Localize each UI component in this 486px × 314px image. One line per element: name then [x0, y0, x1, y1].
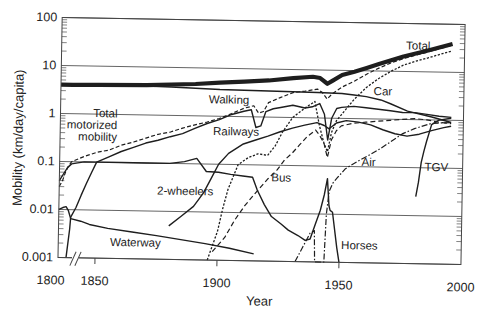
x-tick-label: 1950 [325, 278, 353, 292]
x-tick-label: 1900 [203, 276, 231, 290]
x-axis-label: Year [246, 293, 273, 308]
curve-label-total-motorized: mobility [78, 130, 117, 143]
curve-label-tgv: TGV [424, 161, 448, 173]
series-line-total [61, 37, 453, 91]
y-tick-label: 10 [42, 58, 56, 72]
curve-label-total: Total [406, 39, 431, 51]
y-tick-label: 0.001 [22, 250, 54, 265]
plot-area: 180018501900195020001001010.10.010.001 T… [8, 10, 480, 313]
gridline [59, 209, 462, 216]
series-line-car [207, 47, 452, 265]
gridline [61, 65, 464, 72]
chart-svg: 180018501900195020001001010.10.010.001 T… [0, 0, 486, 314]
curve-label-total-motorized: Total [93, 107, 118, 119]
y-tick-label: 1 [48, 106, 55, 120]
curve-label-two-wheelers: 2-wheelers [157, 184, 214, 197]
curve-label-railways: Railways [213, 125, 259, 138]
curve-label-car: Car [374, 85, 393, 97]
curve-label-horses: Horses [341, 239, 378, 252]
curve-label-walking: Walking [209, 93, 250, 106]
curve-label-total-motorized: motorized [67, 118, 118, 131]
series-line-total-motorized [59, 38, 452, 193]
curve-label-bus: Bus [271, 171, 291, 183]
curve-label-air: Air [362, 156, 376, 168]
y-axis-label: Mobility (km/day/capita) [9, 69, 26, 206]
series-line-horses [58, 156, 341, 262]
curve-label-waterway: Waterway [110, 236, 161, 249]
x-tick-label: 2000 [446, 280, 474, 294]
y-tick-label: 0.1 [37, 154, 55, 168]
y-tick-label: 100 [36, 10, 57, 24]
x-tick-label: 1800 [37, 273, 65, 287]
chart-figure: 180018501900195020001001010.10.010.001 T… [0, 0, 486, 314]
y-tick-label: 0.01 [29, 202, 54, 216]
x-tick-label: 1850 [81, 274, 109, 288]
